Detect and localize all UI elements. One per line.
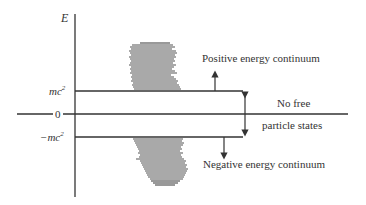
- gap-label-line2: particle states: [262, 119, 322, 131]
- negative-mc2-label: −mc2: [40, 130, 64, 143]
- negative-continuum-label: Negative energy continuum: [203, 158, 325, 170]
- energy-level-diagram: E mc2 0 −mc2: [0, 0, 366, 205]
- zero-label: 0: [55, 108, 61, 120]
- positive-continuum-label: Positive energy continuum: [202, 52, 320, 64]
- positive-continuum-hatch: [129, 43, 181, 89]
- energy-axis-label: E: [60, 11, 69, 25]
- positive-mc2-label: mc2: [49, 84, 66, 97]
- gap-label-line1: No free: [277, 97, 310, 109]
- negative-continuum-hatch: [133, 139, 188, 185]
